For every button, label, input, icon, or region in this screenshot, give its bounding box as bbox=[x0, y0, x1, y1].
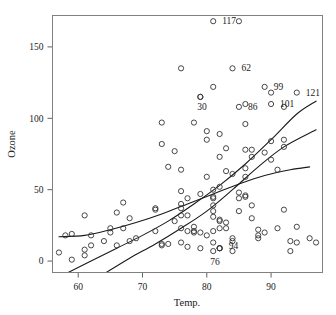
point-label-94: 94 bbox=[229, 241, 239, 251]
point-label-121: 121 bbox=[306, 88, 321, 98]
y-tick-label-0: 0 bbox=[39, 256, 44, 266]
point-label-99: 99 bbox=[274, 82, 284, 92]
y-tick-label-100: 100 bbox=[29, 114, 44, 124]
x-axis-title: Temp. bbox=[174, 297, 200, 308]
x-tick-label-90: 90 bbox=[266, 282, 276, 292]
y-axis-title: Ozone bbox=[6, 130, 17, 158]
point-label-101: 101 bbox=[280, 99, 295, 109]
x-tick-label-60: 60 bbox=[73, 282, 83, 292]
point-label-30: 30 bbox=[197, 102, 207, 112]
ozone-temp-scatter-plot: 117629912110186309476 60708090050100150 … bbox=[0, 0, 336, 315]
point-label-62: 62 bbox=[242, 63, 252, 73]
chart-figure: 117629912110186309476 60708090050100150 … bbox=[0, 0, 336, 315]
point-label-117: 117 bbox=[222, 16, 236, 26]
y-tick-label-50: 50 bbox=[34, 185, 44, 195]
point-label-76: 76 bbox=[210, 257, 220, 267]
x-tick-label-80: 80 bbox=[202, 282, 212, 292]
x-tick-label-70: 70 bbox=[138, 282, 148, 292]
y-tick-label-150: 150 bbox=[29, 42, 44, 52]
point-label-86: 86 bbox=[248, 102, 258, 112]
